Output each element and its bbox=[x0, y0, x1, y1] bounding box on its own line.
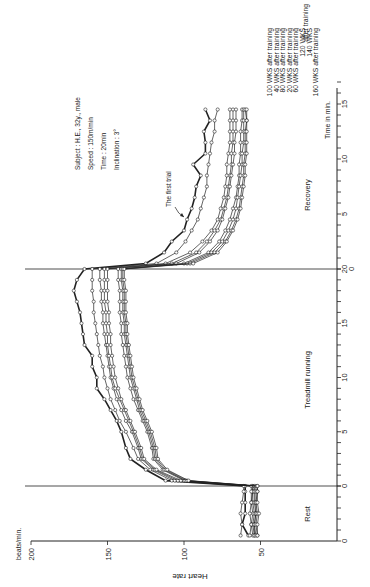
annotation-inclination: Inclination : 3° bbox=[113, 129, 120, 170]
data-point bbox=[91, 289, 94, 292]
time-tick-label: 0 bbox=[340, 484, 349, 488]
data-point bbox=[256, 534, 259, 537]
data-point bbox=[195, 185, 198, 188]
data-point bbox=[199, 207, 202, 210]
data-point bbox=[94, 322, 97, 325]
time-tick-label: 0 bbox=[347, 267, 356, 271]
data-point bbox=[140, 446, 143, 449]
data-point bbox=[124, 289, 127, 292]
data-point bbox=[225, 174, 228, 177]
data-point bbox=[132, 446, 135, 449]
data-point bbox=[257, 512, 260, 515]
data-point bbox=[109, 409, 112, 412]
data-point bbox=[221, 218, 224, 221]
data-point bbox=[250, 523, 253, 526]
data-point bbox=[230, 152, 233, 155]
data-point bbox=[114, 376, 117, 379]
data-point bbox=[109, 343, 112, 346]
data-point bbox=[250, 501, 253, 504]
data-point bbox=[156, 457, 159, 460]
phase-label-treadmill: Treadmill running bbox=[303, 351, 312, 409]
data-point bbox=[199, 174, 202, 177]
data-point bbox=[126, 333, 129, 336]
data-point bbox=[242, 185, 245, 188]
heart-rate-unit: beats/min. bbox=[15, 528, 22, 560]
data-point bbox=[245, 119, 248, 122]
data-point bbox=[234, 119, 237, 122]
data-point bbox=[230, 174, 233, 177]
data-point bbox=[135, 387, 138, 390]
data-point bbox=[241, 152, 244, 155]
data-point bbox=[241, 196, 244, 199]
data-point bbox=[106, 278, 109, 281]
data-point bbox=[124, 446, 127, 449]
data-point bbox=[239, 141, 242, 144]
data-point bbox=[97, 343, 100, 346]
data-point bbox=[114, 409, 117, 412]
heart-rate-chart: 50100150200 005101520051015 beats/min. H… bbox=[0, 0, 370, 587]
data-point bbox=[80, 322, 83, 325]
data-point bbox=[101, 311, 104, 314]
data-point bbox=[242, 490, 245, 493]
time-tick-label: 15 bbox=[340, 319, 349, 327]
data-point bbox=[118, 311, 121, 314]
data-point bbox=[228, 218, 231, 221]
data-point bbox=[101, 365, 104, 368]
data-point bbox=[198, 251, 201, 254]
data-point bbox=[106, 387, 109, 390]
data-point bbox=[118, 300, 121, 303]
data-point bbox=[218, 240, 221, 243]
data-point bbox=[228, 108, 231, 111]
data-point bbox=[103, 267, 106, 270]
data-point bbox=[101, 322, 104, 325]
legend-bracket-label: after training bbox=[302, 4, 310, 42]
data-point bbox=[107, 354, 110, 357]
data-point bbox=[216, 108, 219, 111]
data-point bbox=[149, 468, 152, 471]
data-point bbox=[213, 229, 216, 232]
data-point bbox=[127, 343, 130, 346]
data-point bbox=[124, 409, 127, 412]
data-point bbox=[239, 207, 242, 210]
data-point bbox=[143, 457, 146, 460]
series-line bbox=[120, 108, 258, 537]
data-point bbox=[123, 354, 126, 357]
data-point bbox=[124, 300, 127, 303]
data-point bbox=[150, 430, 153, 433]
data-point bbox=[106, 343, 109, 346]
data-point bbox=[83, 267, 86, 270]
data-point bbox=[75, 300, 78, 303]
phase-label-rest: Rest bbox=[303, 505, 312, 521]
data-point bbox=[190, 229, 193, 232]
data-point bbox=[155, 446, 158, 449]
data-point bbox=[137, 457, 140, 460]
data-point bbox=[245, 130, 248, 133]
time-tick-label: 5 bbox=[340, 430, 349, 434]
data-point bbox=[245, 152, 248, 155]
data-point bbox=[123, 278, 126, 281]
data-point bbox=[186, 218, 189, 221]
annotation-time: Time : 20min bbox=[100, 132, 107, 170]
data-point bbox=[190, 207, 193, 210]
annotation-subject: Subject : H.E., 32y., male bbox=[74, 97, 82, 170]
data-point bbox=[239, 174, 242, 177]
data-point bbox=[141, 409, 144, 412]
data-point bbox=[121, 343, 124, 346]
phase-label-recovery: Recovery bbox=[303, 179, 312, 211]
data-point bbox=[241, 523, 244, 526]
data-point bbox=[95, 387, 98, 390]
data-point bbox=[192, 163, 195, 166]
data-point bbox=[245, 108, 248, 111]
data-point bbox=[202, 196, 205, 199]
data-point bbox=[81, 333, 84, 336]
data-point bbox=[72, 289, 75, 292]
data-point bbox=[118, 289, 121, 292]
data-point bbox=[193, 196, 196, 199]
data-point bbox=[98, 267, 101, 270]
data-point bbox=[224, 229, 227, 232]
data-point bbox=[146, 419, 149, 422]
data-point bbox=[234, 207, 237, 210]
data-point bbox=[225, 240, 228, 243]
data-point bbox=[155, 468, 158, 471]
hr-tick-label: 200 bbox=[27, 548, 36, 561]
